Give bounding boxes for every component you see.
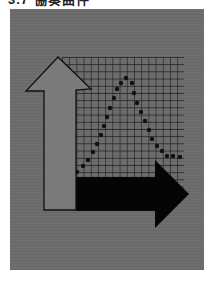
curve-dot [108, 106, 112, 110]
curve-dot [91, 150, 95, 154]
chart-illustration [0, 0, 214, 283]
curve-dot [147, 128, 151, 132]
curve-dot [135, 101, 139, 105]
curve-dot [143, 119, 147, 123]
curve-dot [115, 87, 119, 91]
curve-dot [105, 115, 109, 119]
curve-dot [81, 164, 85, 168]
curve-dot [132, 91, 136, 95]
curve-dot [112, 96, 116, 100]
curve-dot [124, 76, 128, 80]
curve-dot [150, 137, 154, 141]
curve-dot [102, 124, 106, 128]
curve-dot [86, 158, 90, 162]
curve-dot [165, 154, 169, 158]
curve-dot [155, 144, 159, 148]
curve-dot [99, 133, 103, 137]
curve-dot [119, 81, 123, 85]
curve-dot [178, 155, 182, 159]
curve-dot [171, 154, 175, 158]
curve-dot [95, 142, 99, 146]
curve-dot [139, 110, 143, 114]
curve-dot [160, 149, 164, 153]
curve-dot [130, 81, 134, 85]
